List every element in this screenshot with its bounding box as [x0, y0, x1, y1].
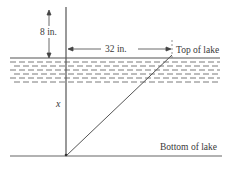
- depth-variable-label: x: [55, 98, 61, 109]
- water-hatching: [10, 62, 220, 82]
- bottom-of-lake-label: Bottom of lake: [160, 142, 217, 152]
- distance-label: 32 in.: [105, 44, 127, 54]
- top-of-lake-label: Top of lake: [176, 45, 219, 55]
- diagram-canvas: 8 in. 32 in. Top of lake x Bottom of lak…: [0, 0, 231, 171]
- root-point: [65, 154, 68, 157]
- lake-lily-diagram: 8 in. 32 in. Top of lake x Bottom of lak…: [0, 0, 231, 171]
- height-label: 8 in.: [40, 27, 57, 37]
